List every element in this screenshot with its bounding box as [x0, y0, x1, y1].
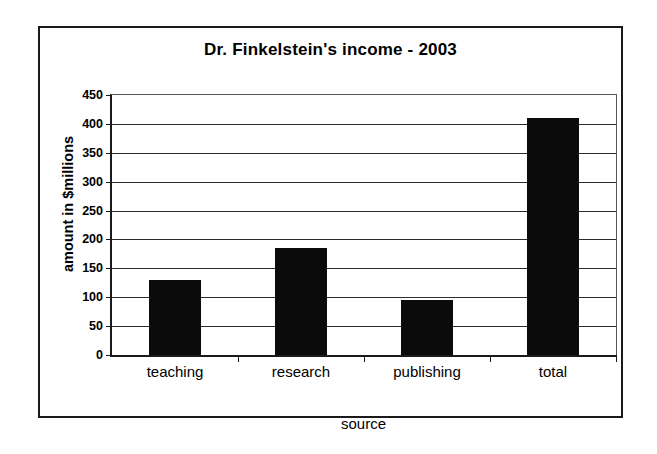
y-axis-tick-label: 350 — [82, 146, 103, 160]
x-axis-label-research: research — [272, 363, 330, 380]
y-axis-tick-mark — [106, 95, 112, 96]
y-axis-title: amount in $millions — [60, 124, 76, 284]
bar-publishing — [401, 300, 454, 355]
y-axis-tick-label: 200 — [82, 232, 103, 246]
chart-title: Dr. Finkelstein's income - 2003 — [40, 40, 621, 60]
x-axis-tick-mark — [616, 355, 617, 362]
x-axis-tick-mark — [238, 355, 239, 362]
y-axis-tick-label: 100 — [82, 290, 103, 304]
y-axis-tick-label: 400 — [82, 117, 103, 131]
y-axis-tick-mark — [106, 355, 112, 356]
y-axis-tick-label: 0 — [96, 348, 103, 362]
x-axis-tick-mark — [490, 355, 491, 362]
y-axis-tick-mark — [106, 211, 112, 212]
y-axis-tick-label: 250 — [82, 204, 103, 218]
y-axis-tick-label: 50 — [89, 319, 103, 333]
bar-teaching — [149, 280, 202, 355]
y-axis-tick-mark — [106, 182, 112, 183]
y-axis-tick-mark — [106, 153, 112, 154]
x-axis-tick-mark — [364, 355, 365, 362]
plot-area: 450400350300250200150100500 teachingrese… — [110, 94, 617, 357]
y-axis-tick-label: 150 — [82, 261, 103, 275]
bar-research — [275, 248, 328, 355]
y-axis-tick-label: 300 — [82, 175, 103, 189]
x-axis-label-teaching: teaching — [147, 363, 204, 380]
x-axis-title: source — [110, 415, 617, 432]
x-axis-label-total: total — [539, 363, 567, 380]
y-axis-tick-mark — [106, 326, 112, 327]
bar-total — [527, 118, 580, 355]
y-axis-tick-label: 450 — [82, 88, 103, 102]
y-axis-tick-mark — [106, 297, 112, 298]
y-axis-tick-mark — [106, 268, 112, 269]
chart-frame: Dr. Finkelstein's income - 2003 amount i… — [38, 26, 623, 418]
x-axis-label-publishing: publishing — [393, 363, 461, 380]
y-axis-tick-mark — [106, 239, 112, 240]
y-axis-tick-mark — [106, 124, 112, 125]
